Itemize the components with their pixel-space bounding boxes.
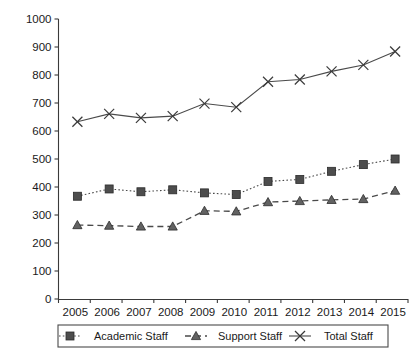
legend-label-academic-staff: Academic Staff bbox=[94, 330, 169, 342]
data-point-academic-staff-2013 bbox=[328, 167, 336, 175]
x-tick-label-2012: 2012 bbox=[285, 306, 311, 318]
staff-line-chart: 01002003004005006007008009001000 2005200… bbox=[0, 0, 419, 354]
y-tick-label-600: 600 bbox=[32, 125, 51, 137]
y-tick-label-900: 900 bbox=[32, 41, 51, 53]
data-point-academic-staff-2009 bbox=[200, 189, 208, 197]
chart-canvas: 01002003004005006007008009001000 2005200… bbox=[0, 0, 419, 354]
x-tick-label-2010: 2010 bbox=[221, 306, 247, 318]
data-point-academic-staff-2008 bbox=[169, 186, 177, 194]
data-point-support-staff-2011 bbox=[263, 198, 272, 206]
data-point-academic-staff-2014 bbox=[359, 161, 367, 169]
series-total-staff bbox=[72, 46, 400, 126]
data-point-academic-staff-2006 bbox=[105, 185, 113, 193]
data-point-legend-academic-staff-2005 bbox=[66, 332, 74, 340]
data-point-academic-staff-2015 bbox=[391, 155, 399, 163]
data-point-support-staff-2015 bbox=[391, 186, 400, 194]
y-tick-label-1000: 1000 bbox=[26, 13, 52, 25]
x-tick-label-2015: 2015 bbox=[380, 306, 406, 318]
x-tick-label-2006: 2006 bbox=[94, 306, 120, 318]
data-series-group bbox=[72, 46, 400, 230]
x-axis: 2005200620072008200920102011201220132014… bbox=[59, 299, 409, 318]
legend-label-total-staff: Total Staff bbox=[324, 330, 374, 342]
y-axis: 01002003004005006007008009001000 bbox=[26, 13, 59, 305]
y-tick-label-300: 300 bbox=[32, 209, 51, 221]
y-axis-tick-labels: 01002003004005006007008009001000 bbox=[26, 13, 52, 305]
data-point-academic-staff-2005 bbox=[73, 192, 81, 200]
y-tick-label-700: 700 bbox=[32, 97, 51, 109]
y-tick-label-200: 200 bbox=[32, 237, 51, 249]
x-tick-label-2009: 2009 bbox=[190, 306, 216, 318]
chart-legend: Academic StaffSupport StaffTotal Staff bbox=[58, 325, 388, 347]
data-point-academic-staff-2010 bbox=[232, 191, 240, 199]
data-point-total-staff-2015 bbox=[390, 46, 400, 56]
series-academic-staff bbox=[73, 155, 399, 200]
x-tick-label-2007: 2007 bbox=[126, 306, 152, 318]
y-tick-label-400: 400 bbox=[32, 181, 51, 193]
data-point-total-staff-2005 bbox=[72, 117, 82, 127]
y-tick-label-0: 0 bbox=[45, 293, 51, 305]
data-point-academic-staff-2011 bbox=[264, 177, 272, 185]
y-tick-label-800: 800 bbox=[32, 69, 51, 81]
x-tick-label-2005: 2005 bbox=[63, 306, 89, 318]
y-axis-ticks bbox=[55, 19, 59, 299]
data-point-total-staff-2014 bbox=[358, 60, 368, 70]
y-tick-label-100: 100 bbox=[32, 265, 51, 277]
x-tick-label-2013: 2013 bbox=[317, 306, 343, 318]
data-point-academic-staff-2012 bbox=[296, 175, 304, 183]
x-tick-label-2014: 2014 bbox=[349, 306, 375, 318]
data-point-total-staff-2013 bbox=[327, 66, 337, 76]
series-line-total-staff bbox=[77, 51, 395, 121]
data-point-academic-staff-2007 bbox=[137, 188, 145, 196]
x-tick-label-2011: 2011 bbox=[254, 306, 279, 318]
y-tick-label-500: 500 bbox=[32, 153, 51, 165]
x-tick-label-2008: 2008 bbox=[158, 306, 184, 318]
legend-label-support-staff: Support Staff bbox=[218, 330, 283, 342]
x-axis-tick-labels: 2005200620072008200920102011201220132014… bbox=[63, 306, 406, 318]
